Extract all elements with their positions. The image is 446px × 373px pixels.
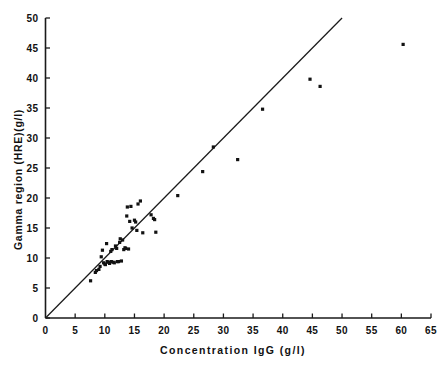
x-tick-label: 0 <box>43 325 49 336</box>
x-tick-label: 5 <box>72 325 78 336</box>
data-point <box>117 260 120 263</box>
data-point <box>128 220 131 223</box>
x-tick-label: 60 <box>395 325 407 336</box>
data-point <box>201 170 204 173</box>
data-point <box>141 231 144 234</box>
data-point <box>115 247 118 250</box>
x-tick-label: 50 <box>336 325 348 336</box>
data-point <box>110 248 113 251</box>
scatter-plot-figure: 05101520253035404550 0510152025303540455… <box>0 0 446 373</box>
data-point <box>308 78 311 81</box>
data-point <box>154 231 157 234</box>
data-point <box>153 218 156 221</box>
data-point <box>89 279 92 282</box>
data-point <box>127 247 130 250</box>
data-point <box>402 43 405 46</box>
data-point <box>136 202 139 205</box>
data-point <box>125 214 128 217</box>
data-point <box>124 247 127 250</box>
data-point <box>135 229 138 232</box>
data-point <box>120 259 123 262</box>
data-point <box>104 263 107 266</box>
data-point <box>101 249 104 252</box>
y-tick-label: 30 <box>27 133 39 144</box>
data-point <box>126 205 129 208</box>
y-axis-label: Gamma region (HRE)(g/l) <box>12 109 24 250</box>
x-tick-label: 30 <box>217 325 229 336</box>
data-point <box>97 268 100 271</box>
data-point <box>118 241 121 244</box>
x-tick-label: 55 <box>366 325 378 336</box>
x-axis-label: Concentration IgG (g/l) <box>160 344 306 356</box>
y-tick-label: 5 <box>33 283 39 294</box>
y-tick-label: 20 <box>27 193 39 204</box>
x-tick-label: 40 <box>277 325 289 336</box>
data-point <box>105 242 108 245</box>
data-point <box>261 108 264 111</box>
y-tick-label: 50 <box>27 13 39 24</box>
data-point <box>176 194 179 197</box>
x-tick-label: 20 <box>158 325 170 336</box>
data-point <box>139 199 142 202</box>
data-point <box>149 213 152 216</box>
data-point <box>98 265 101 268</box>
y-tick-label: 40 <box>27 73 39 84</box>
x-tick-label: 10 <box>99 325 111 336</box>
y-tick-label: 45 <box>27 43 39 54</box>
y-tick-label: 25 <box>27 163 39 174</box>
y-tick-label: 35 <box>27 103 39 114</box>
data-point <box>121 238 124 241</box>
x-tick-label: 25 <box>188 325 200 336</box>
data-point <box>130 226 133 229</box>
data-point <box>236 158 239 161</box>
data-point <box>134 220 137 223</box>
data-point <box>129 205 132 208</box>
y-tick-label: 0 <box>33 313 39 324</box>
data-point <box>212 145 215 148</box>
data-point <box>318 85 321 88</box>
data-point <box>100 255 103 258</box>
y-tick-label: 10 <box>27 253 39 264</box>
data-point <box>113 261 116 264</box>
x-tick-label: 15 <box>128 325 140 336</box>
y-tick-label: 15 <box>27 223 39 234</box>
x-tick-label: 65 <box>425 325 437 336</box>
x-tick-label: 35 <box>247 325 259 336</box>
x-tick-label: 45 <box>306 325 318 336</box>
